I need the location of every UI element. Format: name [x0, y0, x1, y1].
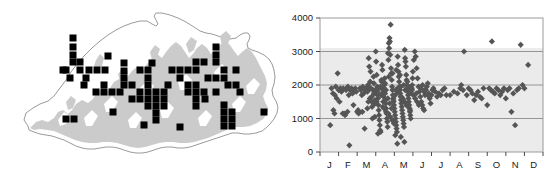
occurrence-record-marker [86, 67, 93, 74]
x-axis-month-label: J [438, 159, 443, 170]
occurrence-record-marker [213, 89, 220, 96]
occurrence-record-marker [205, 75, 212, 82]
occurrence-record-marker [213, 59, 220, 66]
occurrence-record-marker [153, 96, 160, 103]
occurrence-record-marker [153, 110, 160, 117]
occurrence-record-marker [121, 75, 128, 82]
occurrence-record-marker [221, 67, 228, 74]
occurrence-record-marker [185, 67, 192, 74]
x-axis-month-label: J [420, 159, 425, 170]
occurrence-record-marker [177, 67, 184, 74]
occurrence-record-marker [213, 52, 220, 59]
occurrence-record-marker [213, 75, 220, 82]
occurrence-record-marker [221, 102, 228, 109]
occurrence-record-marker [60, 67, 67, 74]
occurrence-record-marker [165, 82, 172, 89]
occurrence-record-marker [77, 67, 84, 74]
y-axis-tick-label: 2000 [292, 79, 313, 90]
bhutan-map-svg [0, 0, 288, 176]
x-axis-month-label: D [530, 159, 537, 170]
occurrence-record-marker [93, 89, 100, 96]
occurrence-record-marker [70, 52, 77, 59]
occurrence-record-marker [67, 75, 74, 82]
occurrence-record-marker [177, 124, 184, 131]
x-axis-month-label: A [382, 159, 389, 170]
occurrence-record-marker [193, 103, 200, 110]
occurrence-record-marker [193, 89, 200, 96]
plot-background-upper [320, 18, 543, 48]
scatter-chart-panel: 01000200030004000 JFMAMJJASOND [288, 0, 556, 176]
occurrence-record-marker [202, 96, 209, 103]
occurrence-record-marker [213, 44, 220, 51]
x-axis-month-label: N [512, 159, 519, 170]
occurrence-record-marker [71, 116, 78, 123]
occurrence-record-marker [129, 96, 136, 103]
occurrence-record-marker [169, 67, 176, 74]
y-axis-tick-label: 0 [308, 146, 313, 157]
occurrence-record-marker [105, 53, 112, 60]
occurrence-record-marker [261, 109, 268, 116]
occurrence-record-marker [225, 82, 232, 89]
occurrence-record-marker [201, 89, 208, 96]
y-axis-group: 01000200030004000 [292, 12, 320, 157]
occurrence-record-marker [221, 116, 228, 123]
occurrence-record-marker [137, 67, 144, 74]
occurrence-record-marker [102, 67, 109, 74]
occurrence-record-marker [81, 82, 88, 89]
elevation-scatter-svg: 01000200030004000 JFMAMJJASOND [288, 0, 556, 176]
x-axis-month-label: S [475, 159, 481, 170]
occurrence-record-marker [109, 89, 116, 96]
occurrence-record-marker [94, 67, 101, 74]
occurrence-record-marker [149, 60, 156, 67]
occurrence-record-marker [145, 75, 152, 82]
x-axis-month-label: F [345, 159, 351, 170]
occurrence-record-marker [153, 117, 160, 124]
occurrence-record-marker [221, 123, 228, 130]
occurrence-record-marker [193, 59, 200, 66]
occurrence-record-marker [229, 123, 236, 130]
occurrence-record-marker [121, 68, 128, 75]
occurrence-record-marker [221, 75, 228, 82]
x-axis-month-label: M [400, 159, 408, 170]
occurrence-record-marker [70, 44, 77, 51]
y-axis-tick-label: 4000 [292, 12, 313, 23]
occurrence-record-marker [137, 96, 144, 103]
x-axis-month-label: A [456, 159, 463, 170]
y-axis-tick-label: 1000 [292, 113, 313, 124]
occurrence-record-marker [121, 82, 128, 89]
occurrence-record-marker [237, 89, 244, 96]
occurrence-record-marker [185, 89, 192, 96]
x-axis-month-label: O [493, 159, 500, 170]
occurrence-record-marker [153, 103, 160, 110]
occurrence-record-marker [77, 59, 84, 66]
occurrence-record-marker [193, 67, 200, 74]
occurrence-record-marker [101, 89, 108, 96]
occurrence-record-marker [229, 109, 236, 116]
occurrence-record-marker [121, 60, 128, 67]
occurrence-record-marker [161, 96, 168, 103]
occurrence-record-marker [117, 89, 124, 96]
occurrence-record-marker [145, 89, 152, 96]
occurrence-record-marker [145, 96, 152, 103]
occurrence-record-marker [221, 109, 228, 116]
occurrence-record-marker [193, 96, 200, 103]
x-axis-month-label: J [327, 159, 332, 170]
occurrence-record-marker [70, 59, 77, 66]
occurrence-record-marker [229, 116, 236, 123]
figure-container: 01000200030004000 JFMAMJJASOND [0, 0, 556, 176]
occurrence-record-marker [145, 103, 152, 110]
occurrence-record-marker [153, 89, 160, 96]
occurrence-record-marker [177, 75, 184, 82]
y-axis-tick-label: 3000 [292, 46, 313, 57]
occurrence-record-marker [129, 82, 136, 89]
occurrence-record-marker [233, 82, 240, 89]
occurrence-record-marker [145, 67, 152, 74]
occurrence-record-marker [101, 82, 108, 89]
occurrence-record-marker [193, 82, 200, 89]
occurrence-record-marker [145, 82, 152, 89]
occurrence-record-marker [185, 82, 192, 89]
occurrence-record-marker [70, 35, 77, 42]
occurrence-record-marker [161, 103, 168, 110]
occurrence-record-marker [233, 67, 240, 74]
distribution-map-panel [0, 0, 288, 176]
